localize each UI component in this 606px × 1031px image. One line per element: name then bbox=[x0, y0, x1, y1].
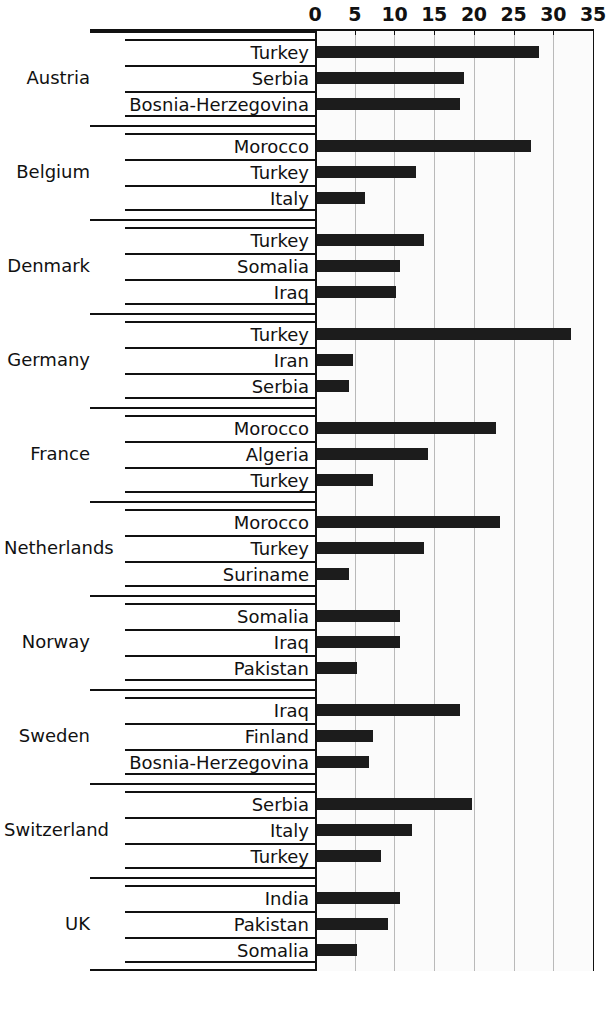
bar-row-label: Serbia bbox=[252, 66, 309, 91]
x-axis-tick-label: 0 bbox=[309, 4, 322, 24]
country-group: NorwaySomaliaIraqPakistan bbox=[0, 595, 603, 689]
bar bbox=[317, 286, 396, 298]
bar bbox=[317, 756, 369, 768]
bar bbox=[317, 798, 472, 810]
bar-row: Turkey bbox=[0, 159, 603, 185]
bar-row: Iraq bbox=[0, 697, 603, 723]
bar-row-label: Finland bbox=[245, 724, 309, 749]
bar bbox=[317, 892, 400, 904]
bar-row-label: Pakistan bbox=[234, 912, 309, 937]
x-axis-tick-mark bbox=[315, 29, 316, 35]
bar bbox=[317, 380, 349, 392]
bar-row-label: Pakistan bbox=[234, 656, 309, 681]
bar-row-label: India bbox=[265, 886, 309, 911]
bar bbox=[317, 192, 365, 204]
group-rows: IraqFinlandBosnia-Herzegovina bbox=[0, 689, 603, 783]
bar bbox=[317, 72, 464, 84]
x-axis-tick-label: 35 bbox=[580, 4, 606, 24]
country-group: AustriaTurkeySerbiaBosnia-Herzegovina bbox=[0, 31, 603, 125]
bar-row-label: Turkey bbox=[250, 536, 309, 561]
country-group: NetherlandsMoroccoTurkeySuriname bbox=[0, 501, 603, 595]
bar-row: Somalia bbox=[0, 253, 603, 279]
bar-row-label: Bosnia-Herzegovina bbox=[129, 92, 309, 117]
bar bbox=[317, 328, 571, 340]
bar bbox=[317, 140, 531, 152]
bar-row: Serbia bbox=[0, 65, 603, 91]
bar-row-label: Turkey bbox=[250, 844, 309, 869]
bar-row-label: Iraq bbox=[274, 698, 309, 723]
country-group: SwedenIraqFinlandBosnia-Herzegovina bbox=[0, 689, 603, 783]
x-axis-tick-label: 20 bbox=[461, 4, 487, 24]
bar-row-label: Iraq bbox=[274, 630, 309, 655]
bar bbox=[317, 166, 416, 178]
bar-row-label: Morocco bbox=[234, 134, 309, 159]
bar bbox=[317, 662, 357, 674]
bar-row-label: Bosnia-Herzegovina bbox=[129, 750, 309, 775]
bar-row-label: Morocco bbox=[234, 416, 309, 441]
bar bbox=[317, 918, 388, 930]
bar-row: Serbia bbox=[0, 373, 603, 399]
bar-row-label: Serbia bbox=[252, 792, 309, 817]
country-group: FranceMoroccoAlgeriaTurkey bbox=[0, 407, 603, 501]
bar-row-label: Suriname bbox=[223, 562, 309, 587]
bar-row: Morocco bbox=[0, 415, 603, 441]
bar bbox=[317, 568, 349, 580]
bar-row: Morocco bbox=[0, 509, 603, 535]
group-list: AustriaTurkeySerbiaBosnia-HerzegovinaBel… bbox=[0, 31, 603, 971]
x-axis-tick-mark bbox=[593, 29, 594, 35]
group-rows: MoroccoAlgeriaTurkey bbox=[0, 407, 603, 501]
bar-row-label: Somalia bbox=[237, 938, 309, 963]
x-axis-tick-label: 15 bbox=[421, 4, 447, 24]
bar-row-label: Turkey bbox=[250, 468, 309, 493]
x-axis-tick-mark bbox=[355, 29, 356, 35]
country-group: GermanyTurkeyIranSerbia bbox=[0, 313, 603, 407]
x-axis-tick-label: 25 bbox=[501, 4, 527, 24]
x-axis-tick-label: 10 bbox=[381, 4, 407, 24]
bar-row: Algeria bbox=[0, 441, 603, 467]
country-group: BelgiumMoroccoTurkeyItaly bbox=[0, 125, 603, 219]
bar-row-label: Iran bbox=[274, 348, 309, 373]
bar-row: Iran bbox=[0, 347, 603, 373]
bar-row: Iraq bbox=[0, 629, 603, 655]
country-group: UKIndiaPakistanSomalia bbox=[0, 877, 603, 971]
bar-row: Finland bbox=[0, 723, 603, 749]
bar-row: Italy bbox=[0, 185, 603, 211]
bar bbox=[317, 260, 400, 272]
bar-row: Turkey bbox=[0, 843, 603, 869]
bar-row: Morocco bbox=[0, 133, 603, 159]
bar-row: Iraq bbox=[0, 279, 603, 305]
group-rows: IndiaPakistanSomalia bbox=[0, 877, 603, 971]
bar-row-label: Morocco bbox=[234, 510, 309, 535]
group-rows: SerbiaItalyTurkey bbox=[0, 783, 603, 877]
bar-row: Suriname bbox=[0, 561, 603, 587]
bar bbox=[317, 704, 460, 716]
bar bbox=[317, 730, 373, 742]
country-group: DenmarkTurkeySomaliaIraq bbox=[0, 219, 603, 313]
bar bbox=[317, 422, 496, 434]
bar bbox=[317, 234, 424, 246]
group-separator-line bbox=[90, 969, 315, 971]
bar-row: Turkey bbox=[0, 227, 603, 253]
bar bbox=[317, 474, 373, 486]
bar-row: Somalia bbox=[0, 603, 603, 629]
x-axis-tick-mark bbox=[434, 29, 435, 35]
bar-row-label: Iraq bbox=[274, 280, 309, 305]
bar bbox=[317, 354, 353, 366]
x-axis-tick-label: 30 bbox=[540, 4, 566, 24]
bar-row: Bosnia-Herzegovina bbox=[0, 91, 603, 117]
group-rows: MoroccoTurkeySuriname bbox=[0, 501, 603, 595]
country-group: SwitzerlandSerbiaItalyTurkey bbox=[0, 783, 603, 877]
x-axis-tick-mark bbox=[394, 29, 395, 35]
bar-row: Italy bbox=[0, 817, 603, 843]
group-rows: TurkeySerbiaBosnia-Herzegovina bbox=[0, 31, 603, 125]
bar-row: Pakistan bbox=[0, 911, 603, 937]
group-rows: SomaliaIraqPakistan bbox=[0, 595, 603, 689]
bar-row-label: Turkey bbox=[250, 228, 309, 253]
bar-row: Serbia bbox=[0, 791, 603, 817]
bar-row: Turkey bbox=[0, 39, 603, 65]
bar bbox=[317, 944, 357, 956]
group-rows: MoroccoTurkeyItaly bbox=[0, 125, 603, 219]
group-rows: TurkeyIranSerbia bbox=[0, 313, 603, 407]
bar bbox=[317, 448, 428, 460]
